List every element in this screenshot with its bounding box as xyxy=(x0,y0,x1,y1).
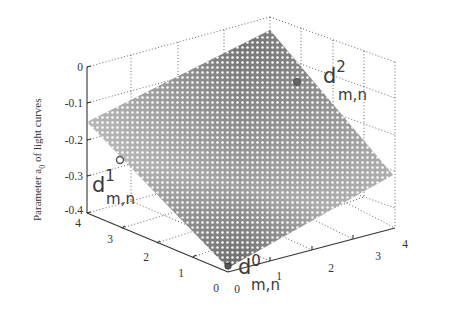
y-tick-4: 4 xyxy=(75,217,81,229)
surface-plot: 0 -0.1 -0.2 -0.3 -0.4 4 3 2 1 0 0 1 2 3 … xyxy=(0,0,452,314)
y-tick-2: 2 xyxy=(143,251,149,263)
z-tick-0: 0 xyxy=(77,61,83,73)
x-tick-4: 4 xyxy=(402,238,408,250)
z-tick-4: -0.4 xyxy=(65,204,83,216)
label-d2-sub: m,n xyxy=(338,86,367,104)
z-tick-1: -0.1 xyxy=(65,97,83,109)
x-tick-0: 0 xyxy=(234,283,240,295)
label-d0-sub: m,n xyxy=(251,276,280,294)
label-d1-sub: m,n xyxy=(106,190,135,208)
x-tick-3: 3 xyxy=(375,250,381,262)
point-d1 xyxy=(117,157,124,164)
point-d0 xyxy=(225,263,231,269)
y-tick-3: 3 xyxy=(107,233,113,245)
label-d2: d2 xyxy=(323,58,346,88)
y-tick-1: 1 xyxy=(178,267,184,279)
x-tick-2: 2 xyxy=(328,262,334,274)
z-tick-labels: 0 -0.1 -0.2 -0.3 -0.4 xyxy=(65,61,83,216)
y-tick-0: 0 xyxy=(213,282,219,294)
z-axis-label: Parameter a0 of light curves xyxy=(31,98,47,221)
label-d0: d0 xyxy=(238,252,261,279)
point-d2 xyxy=(294,79,301,86)
z-tick-3: -0.3 xyxy=(65,170,83,182)
z-tick-2: -0.2 xyxy=(65,134,83,146)
